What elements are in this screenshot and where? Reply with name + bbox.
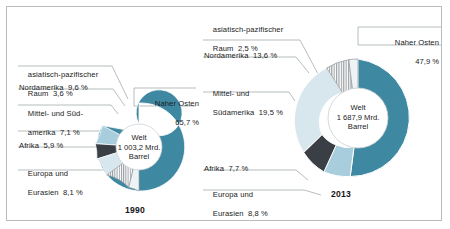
left-center-total: Welt 1 003,2 Mrd. Barrel [104, 133, 174, 162]
right-label-naher-osten-name: Naher Osten [395, 38, 439, 47]
right-center-line1: Welt [350, 103, 365, 112]
left-label-naher-osten-name: Naher Osten [155, 99, 199, 108]
left-label-mittel-suedamerika-line1: Mittel- und Süd- [28, 109, 83, 118]
left-label-naher-osten: Naher Osten 65,7 % [137, 90, 199, 137]
right-label-naher-osten-value: 47,9 % [415, 57, 439, 66]
right-label-naher-osten: Naher Osten 47,9 % [361, 29, 439, 76]
left-label-europa-eurasien: Europa und Eurasien 8,1 % [19, 160, 83, 207]
right-label-mittel-suedamerika-line1: Mittel- und [213, 89, 250, 98]
left-label-mittel-suedamerika: Mittel- und Süd- amerika 7,1 % [19, 100, 83, 147]
right-label-mittel-suedamerika: Mittel- und Südamerika 19,5 % [204, 80, 283, 127]
left-label-europa-eurasien-line2: Eurasien 8,1 % [28, 188, 83, 197]
right-center-line3: Barrel [348, 122, 368, 131]
left-label-nordamerika: Nordamerika 9,6 % [19, 83, 88, 92]
left-label-afrika: Afrika 5,9 % [19, 141, 63, 150]
left-label-mittel-suedamerika-line2: amerika 7,1 % [28, 128, 80, 137]
right-label-afrika: Afrika 7,7 % [204, 164, 248, 173]
right-center-line2: 1 687,9 Mrd. [337, 113, 380, 122]
right-label-mittel-suedamerika-line2: Südamerika 19,5 % [213, 108, 283, 117]
right-center-total: Welt 1 687,9 Mrd. Barrel [320, 103, 396, 132]
left-center-line3: Barrel [129, 152, 149, 161]
right-label-europa-eurasien: Europa und Eurasien 8,8 % [204, 181, 268, 228]
left-label-asiatisch-pazifisch-line1: asiatisch-pazifischer [28, 70, 98, 79]
figure-canvas: asiatisch-pazifischer Raum 3,6 % Nordame… [0, 0, 450, 229]
left-label-europa-eurasien-line1: Europa und [28, 169, 68, 178]
left-center-line2: 1 003,2 Mrd. [118, 143, 161, 152]
left-center-line1: Welt [131, 133, 146, 142]
left-label-naher-osten-value: 65,7 % [175, 118, 199, 127]
left-chart-year: 1990 [125, 205, 145, 215]
right-label-asiatisch-pazifisch-line1: asiatisch-pazifischer [213, 25, 283, 34]
right-label-europa-eurasien-line1: Europa und [213, 190, 253, 199]
right-label-europa-eurasien-line2: Eurasien 8,8 % [213, 209, 268, 218]
right-label-nordamerika: Nordamerika 13,6 % [204, 51, 277, 60]
right-chart-year: 2013 [331, 189, 351, 199]
